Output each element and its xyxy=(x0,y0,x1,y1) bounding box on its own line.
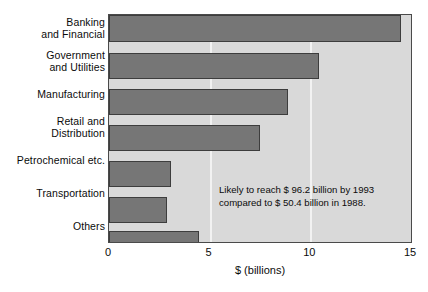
category-label-line: and Utilities xyxy=(0,61,105,73)
category-label-line: Petrochemical etc. xyxy=(0,154,105,166)
category-axis: Banking and Financial Government and Uti… xyxy=(0,14,105,243)
bar-chart-figure: Banking and Financial Government and Uti… xyxy=(0,0,428,292)
x-axis-title: $ (billions) xyxy=(108,264,412,276)
category-label-line: Retail and xyxy=(0,115,105,127)
category-label-manufacturing: Manufacturing xyxy=(0,88,105,100)
category-label-petrochemical: Petrochemical etc. xyxy=(0,154,105,166)
category-label-line: Government xyxy=(0,49,105,61)
bar-manufacturing xyxy=(109,89,288,115)
x-tick-5: 5 xyxy=(206,246,212,258)
category-label-line: Banking xyxy=(0,16,105,28)
x-tick-10: 10 xyxy=(303,246,315,258)
x-tick-15: 15 xyxy=(404,246,416,258)
bar-banking xyxy=(109,15,401,42)
annotation-line: compared to $ 50.4 billion in 1988. xyxy=(219,197,411,210)
category-label-transportation: Transportation xyxy=(0,187,105,199)
category-label-banking: Banking and Financial xyxy=(0,16,105,40)
x-tick-0: 0 xyxy=(105,246,111,258)
category-label-line: Others xyxy=(0,220,105,232)
bar-retail xyxy=(109,125,260,151)
category-label-government: Government and Utilities xyxy=(0,49,105,73)
x-axis-ticks: 0 5 10 15 xyxy=(0,246,428,262)
category-label-retail: Retail and Distribution xyxy=(0,115,105,139)
bar-petrochemical xyxy=(109,161,171,187)
category-label-line: Transportation xyxy=(0,187,105,199)
bar-government xyxy=(109,53,319,79)
category-label-line: Distribution xyxy=(0,127,105,139)
chart-annotation: Likely to reach $ 96.2 billion by 1993 c… xyxy=(219,184,411,209)
bar-transportation xyxy=(109,197,167,223)
category-label-others: Others xyxy=(0,220,105,232)
bar-others xyxy=(109,231,199,243)
category-label-line: Manufacturing xyxy=(0,88,105,100)
category-label-line: and Financial xyxy=(0,28,105,40)
annotation-line: Likely to reach $ 96.2 billion by 1993 xyxy=(219,184,411,197)
